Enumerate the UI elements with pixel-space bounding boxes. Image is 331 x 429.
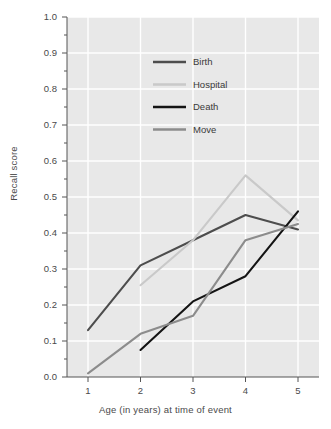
legend-label-move: Move bbox=[193, 124, 216, 135]
chart-canvas bbox=[0, 0, 331, 429]
line-chart-figure: 0.00.10.20.30.40.50.60.70.80.91.0 12345 … bbox=[0, 0, 331, 429]
y-tick-label: 0.8 bbox=[31, 84, 57, 94]
y-tick-label: 0.2 bbox=[31, 300, 57, 310]
y-tick-label: 0.9 bbox=[31, 48, 57, 58]
y-tick-label: 0.1 bbox=[31, 336, 57, 346]
x-tick-label: 1 bbox=[78, 386, 98, 396]
y-tick-label: 0.6 bbox=[31, 156, 57, 166]
legend-label-hospital: Hospital bbox=[193, 79, 227, 90]
x-axis-title: Age (in years) at time of event bbox=[0, 404, 331, 415]
legend-label-birth: Birth bbox=[193, 56, 213, 67]
y-tick-label: 0.3 bbox=[31, 264, 57, 274]
x-tick-label: 4 bbox=[236, 386, 256, 396]
x-tick-label: 2 bbox=[131, 386, 151, 396]
x-axis-major-ticks bbox=[88, 377, 298, 382]
legend-label-death: Death bbox=[193, 101, 218, 112]
y-tick-label: 1.0 bbox=[31, 12, 57, 22]
y-tick-label: 0.4 bbox=[31, 228, 57, 238]
y-tick-label: 0.7 bbox=[31, 120, 57, 130]
x-tick-label: 3 bbox=[183, 386, 203, 396]
x-tick-label: 5 bbox=[288, 386, 308, 396]
y-tick-label: 0.0 bbox=[31, 372, 57, 382]
y-tick-label: 0.5 bbox=[31, 192, 57, 202]
y-axis-title: Recall score bbox=[8, 129, 19, 219]
